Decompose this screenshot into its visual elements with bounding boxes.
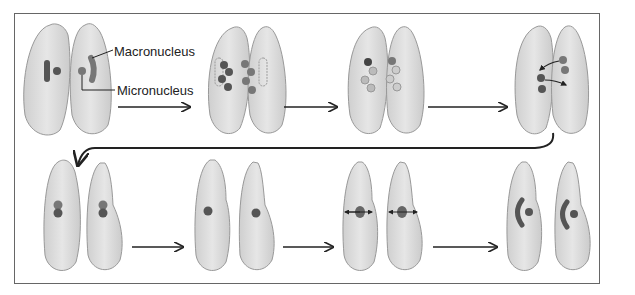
row-connector-arrow bbox=[78, 133, 553, 165]
stage-7 bbox=[343, 162, 422, 270]
stage-1 bbox=[24, 24, 112, 135]
stage-2 bbox=[208, 27, 286, 134]
stage-3 bbox=[348, 27, 424, 134]
conjugation-diagram bbox=[0, 0, 635, 295]
stage-5 bbox=[44, 160, 122, 270]
stage-6 bbox=[195, 160, 274, 270]
macronucleus-label: Macronucleus bbox=[114, 44, 195, 59]
stage-8 bbox=[507, 162, 590, 270]
micronucleus-label: Micronucleus bbox=[117, 83, 194, 98]
stage-4 bbox=[515, 26, 589, 134]
